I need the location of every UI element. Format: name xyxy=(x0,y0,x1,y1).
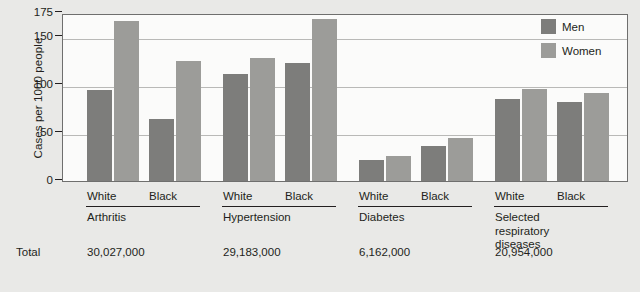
race-label-white: White xyxy=(87,190,116,202)
chart-figure: Cases per 1000 people 050100150175 White… xyxy=(0,0,640,292)
y-tick-100: 100 xyxy=(22,78,62,90)
group-underline xyxy=(494,206,608,207)
bar-selected-respiratory-diseases-black-men xyxy=(557,102,582,181)
y-tick-50: 50 xyxy=(22,126,62,138)
legend-swatch-women-icon xyxy=(541,43,556,58)
bar-hypertension-black-men xyxy=(285,63,310,181)
race-label-black: Black xyxy=(557,190,585,202)
totals-label: Total xyxy=(16,246,40,258)
legend-swatch-men-icon xyxy=(541,19,556,34)
race-label-white: White xyxy=(359,190,388,202)
race-label-black: Black xyxy=(285,190,313,202)
group-label: Diabetes xyxy=(359,211,404,225)
bar-diabetes-black-women xyxy=(448,138,473,181)
race-label-white: White xyxy=(223,190,252,202)
group-label: Hypertension xyxy=(223,211,291,225)
group-underline xyxy=(358,206,472,207)
legend-item-women: Women xyxy=(541,43,619,58)
bar-selected-respiratory-diseases-white-men xyxy=(495,99,520,181)
bar-arthritis-white-women xyxy=(114,21,139,181)
race-label-black: Black xyxy=(149,190,177,202)
race-label-black: Black xyxy=(421,190,449,202)
race-label-white: White xyxy=(495,190,524,202)
bar-arthritis-black-men xyxy=(149,119,174,181)
legend-item-men: Men xyxy=(541,19,619,34)
bar-hypertension-white-women xyxy=(250,58,275,181)
y-tick-150: 150 xyxy=(22,30,62,42)
legend-label-men: Men xyxy=(562,21,584,33)
bar-hypertension-white-men xyxy=(223,74,248,181)
y-tick-0: 0 xyxy=(22,174,62,186)
bar-selected-respiratory-diseases-white-women xyxy=(522,89,547,181)
bar-hypertension-black-women xyxy=(312,19,337,181)
y-tick-175: 175 xyxy=(22,6,62,18)
total-value: 20,954,000 xyxy=(495,246,553,258)
bar-diabetes-white-men xyxy=(359,160,384,181)
group-label: Arthritis xyxy=(87,211,126,225)
bar-arthritis-white-men xyxy=(87,90,112,181)
total-value: 30,027,000 xyxy=(87,246,145,258)
bar-arthritis-black-women xyxy=(176,61,201,181)
group-underline xyxy=(86,206,200,207)
gridline-100 xyxy=(63,87,627,88)
total-value: 29,183,000 xyxy=(223,246,281,258)
chart-legend: Men Women xyxy=(541,19,619,67)
bar-diabetes-white-women xyxy=(386,156,411,181)
legend-label-women: Women xyxy=(562,45,601,57)
bar-selected-respiratory-diseases-black-women xyxy=(584,93,609,181)
bar-diabetes-black-men xyxy=(421,146,446,181)
group-underline xyxy=(222,206,336,207)
total-value: 6,162,000 xyxy=(359,246,410,258)
